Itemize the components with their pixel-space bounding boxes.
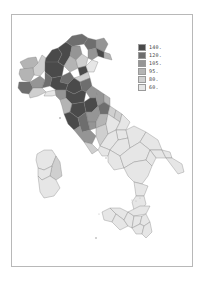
legend-label: 80. xyxy=(149,76,159,83)
region-trieste xyxy=(104,52,112,60)
map-legend: 140. 120. 105. 95. 80. 60. xyxy=(138,43,162,91)
legend-swatch xyxy=(138,84,146,91)
region-lecce xyxy=(166,158,184,174)
legend-item: 120. xyxy=(138,51,162,59)
legend-item: 105. xyxy=(138,59,162,67)
legend-swatch xyxy=(138,68,146,75)
legend-item: 140. xyxy=(138,43,162,51)
legend-item: 60. xyxy=(138,83,162,91)
italy-choropleth-map xyxy=(0,0,206,281)
legend-label: 120. xyxy=(149,52,162,59)
legend-item: 80. xyxy=(138,75,162,83)
legend-label: 140. xyxy=(149,44,162,51)
region-latina xyxy=(84,142,98,154)
island-pantelleria xyxy=(95,237,97,239)
island-eolie-1 xyxy=(131,199,132,200)
island-eolie-3 xyxy=(139,197,140,198)
legend-label: 95. xyxy=(149,68,159,75)
legend-item: 95. xyxy=(138,67,162,75)
island-eolie-2 xyxy=(135,200,136,201)
legend-label: 105. xyxy=(149,60,162,67)
legend-swatch xyxy=(138,44,146,51)
region-catanzaro xyxy=(134,182,148,196)
legend-swatch xyxy=(138,76,146,83)
region-venezia xyxy=(86,60,98,72)
island-capri xyxy=(105,157,107,159)
island-elba xyxy=(59,117,61,119)
legend-swatch xyxy=(138,60,146,67)
island-egadi xyxy=(98,213,99,214)
region-piedmont-west xyxy=(19,68,34,82)
legend-swatch xyxy=(138,52,146,59)
legend-label: 60. xyxy=(149,84,159,91)
